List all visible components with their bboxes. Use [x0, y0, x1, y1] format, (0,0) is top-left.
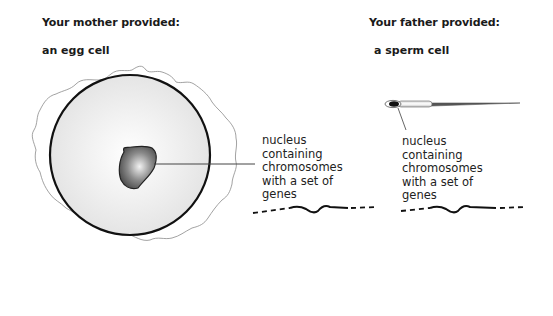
- mother-cell-name: an egg cell: [42, 44, 110, 57]
- label-line: containing: [402, 149, 483, 163]
- sperm-tail: [431, 103, 520, 106]
- sperm-nucleus: [389, 101, 399, 106]
- mother-heading: Your mother provided:: [42, 16, 180, 29]
- sperm-midpiece: [398, 101, 432, 107]
- sperm-chromosome-line: [401, 206, 524, 212]
- label-line: nucleus: [262, 134, 343, 148]
- egg-nucleus-label: nucleus containing chromosomes with a se…: [262, 134, 343, 202]
- label-line: nucleus: [402, 135, 483, 149]
- label-line: genes: [402, 189, 483, 203]
- label-line: genes: [262, 188, 343, 202]
- label-line: containing: [262, 148, 343, 162]
- sperm-cell: [385, 100, 520, 107]
- egg-chromosome-line: [253, 206, 376, 213]
- label-line: with a set of: [402, 176, 483, 190]
- sperm-pointer-line: [398, 108, 406, 130]
- father-cell-name: a sperm cell: [374, 44, 449, 57]
- sperm-nucleus-label: nucleus containing chromosomes with a se…: [402, 135, 483, 203]
- label-line: with a set of: [262, 175, 343, 189]
- label-line: chromosomes: [402, 162, 483, 176]
- label-line: chromosomes: [262, 161, 343, 175]
- father-heading: Your father provided:: [369, 16, 500, 29]
